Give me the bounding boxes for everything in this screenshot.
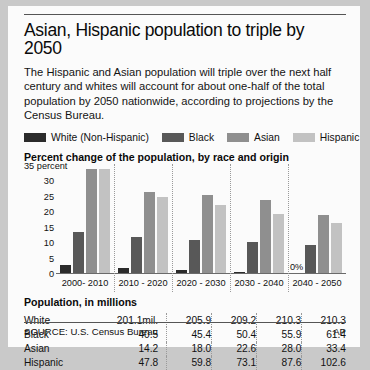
bar [144,192,155,274]
table-row: Asian14.218.022.628.033.4 [24,342,346,356]
legend-swatch-icon [293,133,315,142]
table-cell: 102.6 [302,356,346,370]
table-cell: 14.2 [82,342,167,356]
legend-item-label: Hispanic [320,132,360,143]
bar [73,232,84,274]
x-axis-tick-label: 2010 - 2020 [114,275,172,288]
footer-divider [24,322,346,323]
bar-group [172,166,230,274]
x-axis-tick-label: 2020 - 2030 [172,275,230,288]
table-cell: 28.0 [257,342,302,356]
infographic-body: Asian, Hispanic population to triple by … [24,14,346,370]
table-cell: 33.4 [302,342,346,356]
bar [215,205,226,274]
bar-group [114,166,172,274]
zero-percent-annotation: 0% [290,262,303,272]
y-axis-tick-label: 20 [44,207,54,217]
chart-title: Percent change of the population, by rac… [24,151,346,163]
bar-chart: 35 percent302520151050 0% [24,166,346,274]
table-row-label: Asian [24,342,82,356]
y-axis-tick-label: 30 [44,176,54,186]
top-divider [24,14,346,15]
x-axis-tick-label: 2030 - 2040 [230,275,288,288]
table-row: Hispanic47.859.873.187.6102.6 [24,356,346,370]
bar-group [56,166,114,274]
table-cell: 22.6 [212,342,257,356]
legend-swatch-icon [227,133,249,142]
footer: SOURCE: U.S. Census Bureau AP [24,322,346,337]
table-row-label: Hispanic [24,356,82,370]
legend-item: White (Non-Hispanic) [24,132,149,143]
x-axis-tick-label: 2040 - 2050 [288,275,346,288]
plot-area: 0% [56,166,346,274]
bar [260,200,271,274]
legend-swatch-icon [24,133,46,142]
y-axis-tick-label: 25 [44,192,54,202]
table-cell: 73.1 [212,356,257,370]
bar-group: 0% [288,166,346,274]
table-cell: 87.6 [257,356,302,370]
bar-groups: 0% [56,166,346,274]
infographic-card: Asian, Hispanic population to triple by … [8,6,360,347]
legend-item-label: Asian [254,132,280,143]
legend-item: Asian [227,132,280,143]
bar [131,237,142,274]
page-title: Asian, Hispanic population to triple by … [24,21,346,58]
y-axis: 35 percent302520151050 [24,166,54,274]
bar [247,242,258,274]
y-axis-tick-label: 15 [44,223,54,233]
source-text: SOURCE: U.S. Census Bureau [24,326,158,337]
legend-item-label: White (Non-Hispanic) [51,132,149,143]
x-axis-labels: 2000- 20102010 - 20202020 - 20302030 - 2… [56,275,346,288]
bar [273,214,284,274]
bar [86,169,97,274]
table-title: Population, in millions [24,296,346,308]
y-axis-tick-label: 5 [49,254,54,264]
table-cell: 47.8 [82,356,167,370]
credit-text: AP [333,326,346,337]
legend-swatch-icon [162,133,184,142]
bar-group [230,166,288,274]
x-axis-line [56,273,346,274]
table-cell: 18.0 [167,342,212,356]
y-axis-tick-label: 10 [44,238,54,248]
bar [189,240,200,274]
x-axis-tick-label: 2000- 2010 [56,275,114,288]
chart-legend: White (Non-Hispanic)BlackAsianHispanic [24,132,346,143]
legend-item: Hispanic [293,132,360,143]
bar [318,215,329,274]
bar [331,223,342,274]
summary-text: The Hispanic and Asian population will t… [24,65,346,123]
bar [157,197,168,274]
bar [99,169,110,274]
bar [305,245,316,274]
legend-item: Black [162,132,214,143]
y-axis-tick-label: 0 [49,269,54,279]
bar [202,195,213,274]
legend-item-label: Black [189,132,214,143]
table-cell: 59.8 [167,356,212,370]
